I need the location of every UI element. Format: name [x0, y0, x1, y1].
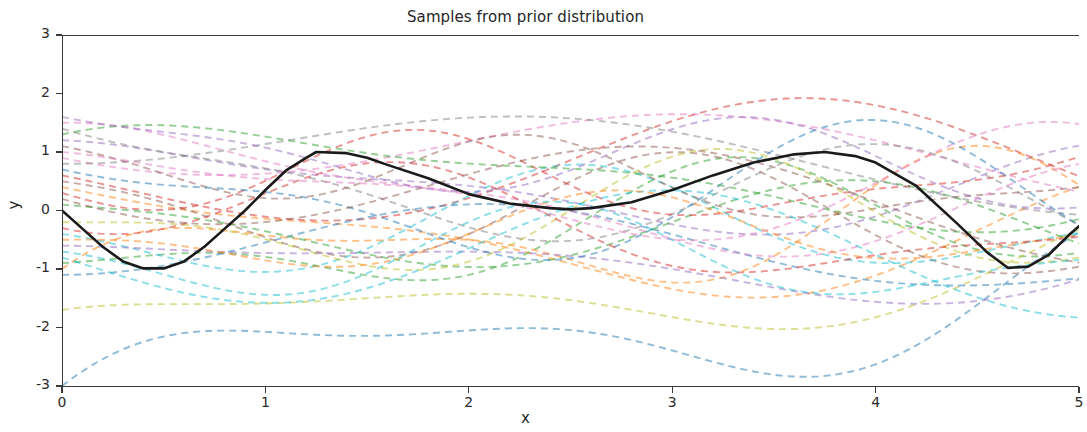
y-tick-mark [56, 151, 62, 152]
sample-curves-group [62, 98, 1079, 386]
plot-canvas [62, 35, 1079, 386]
x-tick-mark [265, 387, 266, 393]
sample-curve [62, 125, 1079, 232]
sample-curve [62, 146, 1079, 283]
y-tick-label: -3 [10, 376, 50, 392]
x-tick-mark [875, 387, 876, 393]
y-tick-label: -1 [10, 259, 50, 275]
y-tick-mark [56, 34, 62, 35]
y-tick-mark [56, 327, 62, 328]
sample-curve [62, 230, 1079, 330]
x-tick-mark [1078, 387, 1079, 393]
x-tick-label: 4 [856, 394, 896, 410]
x-tick-mark [468, 387, 469, 393]
sample-curve [62, 135, 1079, 218]
axis-spine-top [62, 35, 1079, 36]
x-tick-mark [61, 387, 62, 393]
axis-spine-left [62, 35, 63, 387]
x-axis-label: x [0, 409, 1065, 427]
sample-curve [62, 202, 1079, 295]
sample-curve [62, 204, 1079, 285]
y-tick-label: 2 [10, 84, 50, 100]
x-tick-label: 3 [652, 394, 692, 410]
sample-curve [62, 114, 1079, 191]
x-tick-label: 0 [42, 394, 82, 410]
x-tick-label: 5 [1059, 394, 1087, 410]
sample-curve [62, 140, 1079, 234]
y-tick-label: 1 [10, 142, 50, 158]
y-tick-mark [56, 210, 62, 211]
y-tick-label: -2 [10, 318, 50, 334]
axis-spine-bottom [62, 386, 1079, 387]
sample-curve [62, 122, 1079, 240]
y-tick-label: 3 [10, 25, 50, 41]
x-tick-label: 2 [449, 394, 489, 410]
y-axis-label: y [5, 175, 23, 235]
y-tick-mark [56, 268, 62, 269]
chart-title: Samples from prior distribution [0, 8, 1065, 26]
x-tick-mark [672, 387, 673, 393]
plot-area [62, 35, 1079, 386]
sample-curve [62, 129, 1079, 242]
y-tick-mark [56, 93, 62, 94]
x-tick-label: 1 [245, 394, 285, 410]
